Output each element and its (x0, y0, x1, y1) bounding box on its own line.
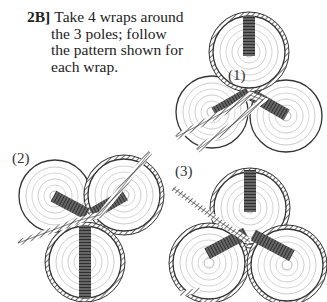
figure-3 (169, 168, 327, 302)
pole-illustrations (0, 0, 327, 302)
figure-1-label: (1) (228, 67, 246, 84)
figure-2 (18, 152, 164, 302)
lashing-instruction-diagram: 2B]Take 4 wraps around the 3 poles; foll… (0, 0, 327, 302)
figure-2-label: (2) (12, 150, 30, 167)
figure-3-label: (3) (175, 163, 193, 180)
figure-1 (176, 12, 322, 152)
